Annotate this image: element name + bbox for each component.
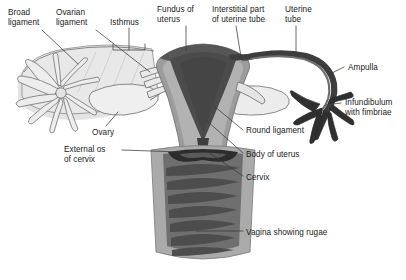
diagram-artwork [0,0,406,280]
label-interstitial-part: Interstitial part of uterine tube [212,5,265,24]
vagina-shape [151,146,255,260]
label-cervix: Cervix [246,173,270,183]
label-broad-ligament: Broad ligament [8,8,39,27]
label-external-os: External os of cervix [64,145,106,164]
label-fundus-of-uterus: Fundus of uterus [157,5,194,24]
uterus-body-shape [156,44,249,156]
label-round-ligament: Round ligament [246,126,304,136]
label-ampulla: Ampulla [348,63,378,73]
anatomical-diagram: Broad ligament Ovarian ligament Isthmus … [0,0,406,280]
label-ovarian-ligament: Ovarian ligament [56,8,87,27]
ovary-shape [89,84,158,115]
label-vagina-showing-rugae: Vagina showing rugae [246,228,327,238]
label-uterine-tube: Uterine tube [285,5,312,24]
label-body-of-uterus: Body of uterus [246,150,300,160]
label-infundibulum: Infundibulum with fimbriae [345,98,392,117]
label-isthmus: Isthmus [110,18,139,28]
label-ovary: Ovary [92,128,114,138]
